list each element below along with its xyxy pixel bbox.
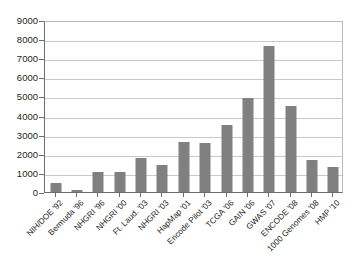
y-tick-label: 6000 bbox=[0, 74, 38, 84]
x-tick-mark bbox=[311, 193, 312, 197]
y-tick-label: 8000 bbox=[0, 35, 38, 45]
bar-slot bbox=[152, 22, 173, 192]
y-tick-label: 3000 bbox=[0, 131, 38, 141]
bar bbox=[157, 165, 168, 192]
y-tick-label: 4000 bbox=[0, 112, 38, 122]
bar-slot bbox=[237, 22, 258, 192]
x-tick-mark bbox=[226, 193, 227, 197]
plot-area bbox=[44, 21, 343, 193]
bar-slot bbox=[216, 22, 237, 192]
bar bbox=[72, 190, 83, 192]
bar bbox=[306, 160, 317, 192]
x-tick-mark bbox=[204, 193, 205, 197]
bar-slot bbox=[45, 22, 66, 192]
x-tick-mark bbox=[161, 193, 162, 197]
bar-slot bbox=[66, 22, 87, 192]
bar bbox=[93, 172, 104, 192]
bar bbox=[285, 106, 296, 192]
bar bbox=[136, 158, 147, 192]
y-tick-label: 5000 bbox=[0, 93, 38, 103]
x-tick-mark bbox=[183, 193, 184, 197]
bar-series bbox=[45, 22, 342, 192]
bar bbox=[328, 167, 339, 192]
bar-slot bbox=[130, 22, 151, 192]
x-tick-mark bbox=[119, 193, 120, 197]
y-tick-label: 9000 bbox=[0, 16, 38, 26]
bar bbox=[114, 172, 125, 192]
x-tick-mark bbox=[290, 193, 291, 197]
x-tick-mark bbox=[332, 193, 333, 197]
bar-slot bbox=[88, 22, 109, 192]
bar-slot bbox=[323, 22, 344, 192]
bar-chart: 0100020003000400050006000700080009000 NI… bbox=[0, 0, 356, 259]
y-tick-label: 0 bbox=[0, 188, 38, 198]
x-tick-mark bbox=[97, 193, 98, 197]
bar bbox=[200, 143, 211, 192]
bar bbox=[178, 142, 189, 192]
x-tick-mark bbox=[76, 193, 77, 197]
y-tick-label: 7000 bbox=[0, 54, 38, 64]
x-tick-mark bbox=[55, 193, 56, 197]
bar-slot bbox=[109, 22, 130, 192]
bar-slot bbox=[280, 22, 301, 192]
x-tick-mark bbox=[247, 193, 248, 197]
bar-slot bbox=[195, 22, 216, 192]
y-tick-label: 2000 bbox=[0, 150, 38, 160]
bar-slot bbox=[259, 22, 280, 192]
bar bbox=[221, 125, 232, 192]
x-tick-mark bbox=[268, 193, 269, 197]
bar-slot bbox=[301, 22, 322, 192]
bar bbox=[242, 98, 253, 192]
bar bbox=[264, 46, 275, 192]
bar bbox=[50, 183, 61, 192]
x-tick-mark bbox=[140, 193, 141, 197]
y-tick-label: 1000 bbox=[0, 169, 38, 179]
y-tick-mark bbox=[39, 193, 44, 194]
bar-slot bbox=[173, 22, 194, 192]
